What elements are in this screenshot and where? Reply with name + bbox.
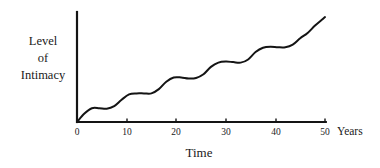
y-axis-label-line-1: Level xyxy=(29,34,58,48)
x-axis-label: Time xyxy=(186,145,213,160)
x-tick-label-10: 10 xyxy=(122,127,132,137)
chart-canvas: 0 10 20 30 40 50 Years Time Level of Int… xyxy=(0,0,380,168)
x-tick-label-30: 30 xyxy=(221,127,231,137)
x-tick-label-50: 50 xyxy=(320,127,330,137)
chart-figure: 0 10 20 30 40 50 Years Time Level of Int… xyxy=(0,0,380,168)
x-tick-label-40: 40 xyxy=(271,127,281,137)
y-axis-label: Level of Intimacy xyxy=(21,34,66,82)
x-axis-tick-labels: 0 10 20 30 40 50 xyxy=(75,127,330,137)
data-series-line xyxy=(77,17,325,122)
y-axis-label-line-2: of xyxy=(38,51,49,65)
y-axis-label-line-3: Intimacy xyxy=(21,68,66,82)
x-axis-unit-label: Years xyxy=(337,125,363,137)
x-tick-label-0: 0 xyxy=(75,127,80,137)
x-tick-label-20: 20 xyxy=(171,127,181,137)
